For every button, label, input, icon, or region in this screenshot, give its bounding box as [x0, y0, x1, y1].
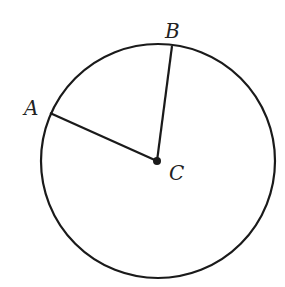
- label-a: A: [22, 96, 38, 120]
- label-c: C: [169, 161, 184, 185]
- label-b: B: [164, 19, 180, 43]
- radius-ca: [50, 113, 157, 161]
- center-point: [153, 157, 161, 165]
- circle-diagram: A B C: [0, 0, 285, 287]
- radius-cb: [157, 46, 172, 161]
